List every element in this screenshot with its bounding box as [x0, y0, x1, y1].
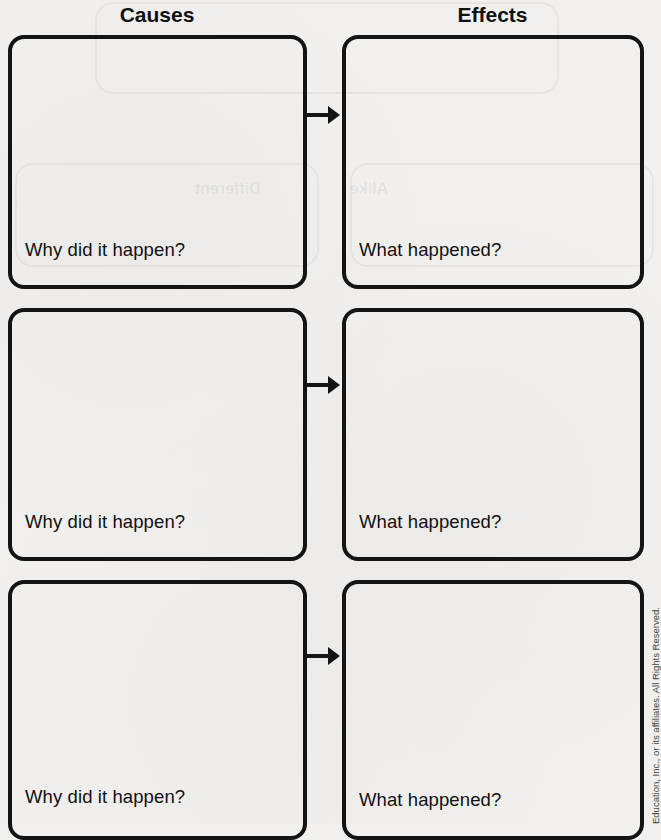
effects-column-header: Effects: [342, 0, 643, 30]
copyright-notice: Education, Inc., or its affiliates. All …: [650, 607, 661, 824]
effect-prompt-2: What happened?: [359, 511, 501, 533]
cause-box-3[interactable]: Why did it happen?: [8, 580, 307, 840]
effect-box-2[interactable]: What happened?: [342, 308, 644, 561]
effect-box-3[interactable]: What happened?: [342, 580, 644, 840]
arrow-right-icon: [307, 647, 341, 665]
effect-prompt-3: What happened?: [359, 789, 501, 811]
effect-box-1[interactable]: What happened?: [342, 35, 644, 289]
cause-box-2[interactable]: Why did it happen?: [8, 308, 307, 561]
cause-prompt-3: Why did it happen?: [25, 786, 185, 808]
causes-column-header: Causes: [8, 0, 306, 30]
arrow-right-icon: [307, 106, 341, 124]
cause-prompt-1: Why did it happen?: [25, 239, 185, 261]
cause-box-1[interactable]: Why did it happen?: [8, 35, 307, 289]
cause-prompt-2: Why did it happen?: [25, 511, 185, 533]
arrow-right-icon: [307, 376, 341, 394]
effect-prompt-1: What happened?: [359, 239, 501, 261]
